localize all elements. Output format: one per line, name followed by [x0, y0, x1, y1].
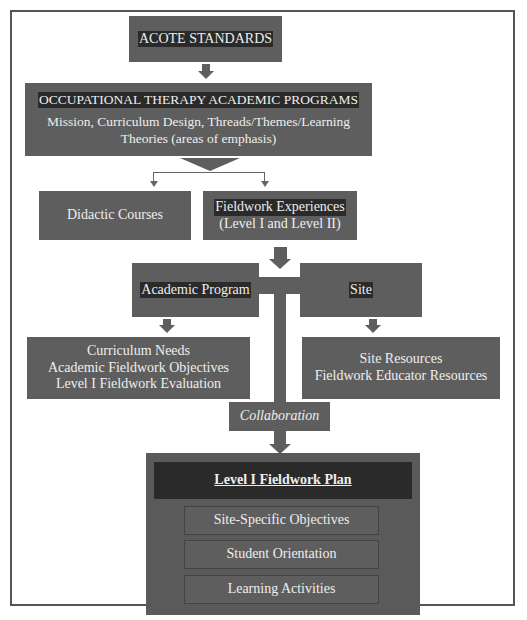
site-resources-box: Site Resources Fieldwork Educator Resour… [302, 337, 500, 399]
fieldwork-plan-title: Level I Fieldwork Plan [214, 472, 351, 489]
academic-needs-box: Curriculum Needs Academic Fieldwork Obje… [27, 337, 250, 399]
acote-standards-box: ACOTE STANDARDS [129, 16, 282, 62]
collaboration-label: Collaboration [240, 408, 319, 425]
academic-program-label: Academic Program [140, 282, 250, 299]
arrow-down-icon [274, 247, 287, 259]
arrow-down-icon [261, 181, 269, 187]
connector-bar [259, 277, 300, 294]
didactic-courses-box: Didactic Courses [39, 191, 191, 240]
academic-needs-line3: Level I Fieldwork Evaluation [56, 376, 221, 393]
arrow-down-icon [365, 325, 381, 333]
collaboration-box: Collaboration [229, 402, 330, 431]
plan-item-learning-activities: Learning Activities [184, 575, 379, 604]
branch-line [153, 172, 265, 173]
ot-programs-box: OCCUPATIONAL THERAPY ACADEMIC PROGRAMS M… [25, 83, 372, 156]
arrow-down-icon [198, 71, 214, 79]
plan-item-site-objectives: Site-Specific Objectives [184, 506, 379, 535]
plan-item-label: Student Orientation [226, 546, 336, 563]
arrow-down-icon [150, 181, 158, 187]
fieldwork-line2: (Level I and Level II) [219, 216, 340, 233]
plan-item-label: Learning Activities [228, 581, 336, 598]
arrow-down-icon [269, 259, 291, 269]
fieldwork-plan-title-box: Level I Fieldwork Plan [154, 462, 412, 499]
acote-standards-label: ACOTE STANDARDS [138, 31, 273, 48]
academic-needs-line2: Academic Fieldwork Objectives [48, 360, 229, 377]
site-box: Site [300, 263, 422, 317]
didactic-courses-label: Didactic Courses [67, 207, 163, 224]
ot-programs-line2: Theories (areas of emphasis) [121, 131, 277, 147]
fieldwork-line1: Fieldwork Experiences [214, 199, 345, 216]
plan-item-student-orientation: Student Orientation [184, 540, 379, 569]
site-resources-line1: Site Resources [360, 351, 443, 368]
fieldwork-experiences-box: Fieldwork Experiences (Level I and Level… [203, 191, 357, 240]
arrow-down-icon [159, 325, 175, 333]
ot-programs-title: OCCUPATIONAL THERAPY ACADEMIC PROGRAMS [38, 92, 359, 108]
site-label: Site [349, 282, 373, 299]
split-arrow-icon [180, 158, 240, 171]
arrow-down-icon [202, 64, 210, 71]
plan-item-label: Site-Specific Objectives [214, 512, 350, 529]
academic-program-box: Academic Program [132, 263, 259, 317]
academic-needs-line1: Curriculum Needs [87, 343, 190, 360]
ot-programs-line1: Mission, Curriculum Design, Threads/Them… [47, 114, 350, 130]
site-resources-line2: Fieldwork Educator Resources [315, 368, 488, 385]
